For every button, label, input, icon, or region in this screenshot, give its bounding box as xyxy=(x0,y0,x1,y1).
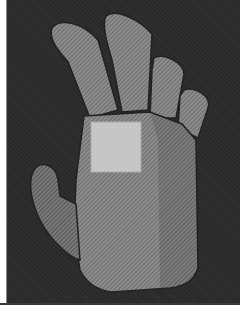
hand-mesh xyxy=(0,0,243,313)
thumb xyxy=(31,165,80,260)
highlight-patch xyxy=(91,122,141,172)
